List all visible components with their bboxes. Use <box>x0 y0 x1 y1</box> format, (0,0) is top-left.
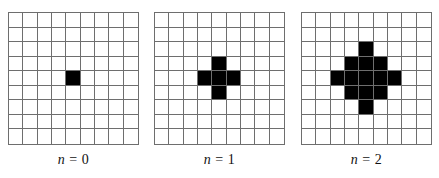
grid-cell <box>95 71 109 86</box>
grid-cell <box>124 86 138 101</box>
grid-cell-filled <box>345 71 359 86</box>
grid-cell <box>23 100 37 115</box>
grid-cell-filled <box>227 71 241 86</box>
grid-cell <box>9 57 23 72</box>
grid-cell <box>124 71 138 86</box>
grid-cell <box>302 115 316 130</box>
grid-cell <box>388 86 402 101</box>
grid-cell <box>241 13 255 28</box>
grid-cell <box>331 86 345 101</box>
grid-cell <box>169 86 183 101</box>
grid-cell <box>52 71 66 86</box>
grid-cell <box>302 57 316 72</box>
grid-cell <box>198 42 212 57</box>
grid-cell <box>66 57 80 72</box>
grid-cell <box>66 86 80 101</box>
grid-cell <box>52 129 66 144</box>
grid-cell <box>52 115 66 130</box>
grid-cell <box>95 57 109 72</box>
grid-cell <box>169 42 183 57</box>
grid-cell <box>417 71 431 86</box>
grid-cell <box>38 71 52 86</box>
grid-cell <box>23 57 37 72</box>
grid-n2 <box>301 12 432 145</box>
grid-cell-filled <box>345 57 359 72</box>
grid-cell <box>169 100 183 115</box>
grid-cell <box>81 129 95 144</box>
grid-cell <box>374 129 388 144</box>
grid-cell <box>184 28 198 43</box>
grid-cell <box>155 100 169 115</box>
grid-cell <box>270 100 284 115</box>
label-n1: n = 1 <box>154 152 285 168</box>
grid-cell-filled <box>359 57 373 72</box>
label-value: 1 <box>228 152 236 167</box>
grid-cell <box>184 71 198 86</box>
grid-cell <box>388 57 402 72</box>
grid-cell <box>95 100 109 115</box>
grid-cell <box>359 13 373 28</box>
grid-cell <box>198 57 212 72</box>
grid-cell <box>109 71 123 86</box>
grid-cell <box>155 28 169 43</box>
grid-cell <box>81 42 95 57</box>
grid-cell <box>212 129 226 144</box>
grid-cell <box>270 86 284 101</box>
grid-cell <box>169 57 183 72</box>
grid-cell <box>81 86 95 101</box>
grid-cell <box>81 13 95 28</box>
grid-cell <box>302 100 316 115</box>
grid-cell <box>241 129 255 144</box>
grid-cell <box>212 100 226 115</box>
grid-cell <box>212 13 226 28</box>
grid-cell <box>241 86 255 101</box>
grid-cell <box>402 86 416 101</box>
grid-cell <box>402 42 416 57</box>
grid-cell <box>302 28 316 43</box>
grid-cell <box>255 13 269 28</box>
grid-cell <box>23 129 37 144</box>
panel-n0 <box>8 12 139 145</box>
grid-cell <box>331 13 345 28</box>
grid-cell <box>374 100 388 115</box>
grid-cell <box>345 129 359 144</box>
grid-cell <box>345 115 359 130</box>
grid-cell <box>169 28 183 43</box>
grid-cell <box>241 71 255 86</box>
grid-cell <box>155 57 169 72</box>
grid-cell <box>184 86 198 101</box>
grid-cell <box>169 129 183 144</box>
grid-cell <box>81 100 95 115</box>
grid-cell <box>124 129 138 144</box>
grid-cell <box>402 28 416 43</box>
grid-n0 <box>8 12 139 145</box>
grid-cell <box>331 42 345 57</box>
grid-cell <box>169 115 183 130</box>
grid-cell <box>124 57 138 72</box>
grid-cell <box>184 100 198 115</box>
grid-cell <box>270 42 284 57</box>
label-equals: = <box>358 152 374 167</box>
grid-cell <box>109 100 123 115</box>
grid-cell <box>38 57 52 72</box>
grid-cell <box>38 115 52 130</box>
grid-cell <box>155 71 169 86</box>
grid-cell <box>302 42 316 57</box>
grid-cell <box>270 13 284 28</box>
grid-cell <box>124 115 138 130</box>
grid-cell <box>124 100 138 115</box>
grid-cell <box>331 28 345 43</box>
grid-cell <box>9 42 23 57</box>
grid-cell <box>388 13 402 28</box>
grid-cell <box>66 28 80 43</box>
grid-cell <box>52 13 66 28</box>
grid-cell <box>95 115 109 130</box>
grid-cell <box>23 42 37 57</box>
grid-cell <box>388 115 402 130</box>
grid-cell <box>331 129 345 144</box>
grid-cell-filled <box>388 71 402 86</box>
grid-cell <box>124 42 138 57</box>
grid-cell-filled <box>198 71 212 86</box>
grid-cell <box>198 13 212 28</box>
grid-cell <box>81 28 95 43</box>
